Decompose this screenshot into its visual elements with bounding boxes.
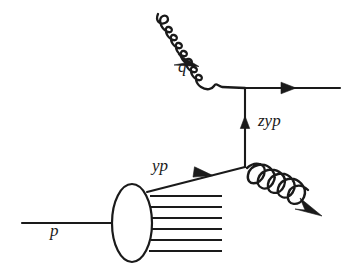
proton-blob	[112, 184, 152, 262]
exchanged-parton-label: zyp	[258, 112, 281, 129]
gluon-arrowhead	[295, 198, 322, 216]
photon-label: q	[178, 58, 187, 75]
struck-parton-arrowhead	[193, 167, 213, 177]
proton-remnant-lines	[149, 196, 222, 251]
photon-wave	[157, 14, 245, 89]
gluon-coil	[247, 164, 308, 204]
outgoing-quark-arrowhead	[281, 82, 296, 94]
feynman-diagram: q zyp yp p	[0, 0, 358, 269]
proton-label: p	[50, 222, 59, 239]
exchanged-parton-arrowhead	[240, 116, 249, 129]
struck-parton-label: yp	[152, 157, 168, 174]
